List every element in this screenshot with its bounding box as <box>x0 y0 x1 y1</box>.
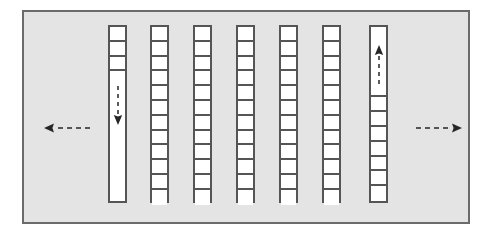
stack-cell <box>152 71 167 86</box>
stack-cell <box>152 145 167 160</box>
stack-cell <box>152 190 167 205</box>
stack-cell <box>281 57 296 72</box>
stack-empty-space-with-up-arrow-icon <box>371 27 386 95</box>
stack-cell <box>152 86 167 101</box>
stack-cell <box>324 116 339 131</box>
stack-cell <box>281 116 296 131</box>
stack-cell <box>324 175 339 190</box>
stack-cell <box>371 171 386 186</box>
stack-column-5 <box>279 25 298 203</box>
stack-cell <box>238 190 253 205</box>
stack-cell <box>195 116 210 131</box>
flow-arrow-right-icon <box>414 120 464 140</box>
stack-cell <box>371 127 386 142</box>
stack-cell <box>238 101 253 116</box>
stack-cell <box>195 160 210 175</box>
stack-cell <box>371 142 386 157</box>
diagram-panel <box>22 10 470 224</box>
stack-cell <box>324 27 339 42</box>
stack-column-2 <box>150 25 169 203</box>
stack-cell <box>324 42 339 57</box>
stack-cell <box>281 101 296 116</box>
stack-cell <box>195 42 210 57</box>
figure-root <box>0 0 493 235</box>
stack-column-3 <box>193 25 212 203</box>
stack-cell <box>238 175 253 190</box>
stack-cell <box>238 57 253 72</box>
stack-cell <box>152 175 167 190</box>
stack-cell <box>238 86 253 101</box>
stack-cell <box>371 112 386 127</box>
stack-cell <box>195 101 210 116</box>
stack-cell <box>110 57 125 72</box>
stack-cell <box>195 57 210 72</box>
stack-cell <box>371 157 386 172</box>
stack-cell <box>195 190 210 205</box>
stack-cell <box>371 97 386 112</box>
stack-cell <box>238 131 253 146</box>
stack-cell <box>195 175 210 190</box>
stack-cell <box>281 190 296 205</box>
stack-cell <box>324 190 339 205</box>
stack-cell <box>281 86 296 101</box>
stack-cell <box>110 27 125 42</box>
stack-column-1 <box>108 25 127 203</box>
stack-cell <box>238 145 253 160</box>
stack-cell <box>238 27 253 42</box>
stack-cell <box>324 145 339 160</box>
stack-column-4 <box>236 25 255 203</box>
stack-cell <box>152 131 167 146</box>
stack-cell <box>281 27 296 42</box>
stack-column-7 <box>369 25 388 203</box>
stack-cell <box>238 71 253 86</box>
stack-cell <box>324 57 339 72</box>
stack-cell <box>152 116 167 131</box>
stack-cell <box>281 131 296 146</box>
stack-cell <box>195 86 210 101</box>
stack-cell <box>324 131 339 146</box>
stack-cell <box>324 71 339 86</box>
stack-cell <box>195 27 210 42</box>
stack-cell <box>324 101 339 116</box>
stack-cell <box>281 160 296 175</box>
stack-empty-space-with-down-arrow-icon <box>110 71 125 201</box>
stack-cell <box>152 27 167 42</box>
stack-cell <box>195 71 210 86</box>
stack-cell <box>281 175 296 190</box>
stack-column-6 <box>322 25 341 203</box>
stack-cell <box>195 131 210 146</box>
stack-cell <box>110 42 125 57</box>
stack-cell <box>238 160 253 175</box>
stack-cell <box>324 86 339 101</box>
stack-cell <box>152 160 167 175</box>
stack-cell <box>371 186 386 201</box>
stack-cell <box>324 160 339 175</box>
stack-cell <box>152 57 167 72</box>
stack-cell <box>238 116 253 131</box>
stack-cell <box>281 42 296 57</box>
stack-cell <box>238 42 253 57</box>
stack-cell <box>195 145 210 160</box>
stack-cell <box>152 42 167 57</box>
stack-cell <box>281 71 296 86</box>
stack-cell <box>152 101 167 116</box>
flow-arrow-left-icon <box>42 120 92 140</box>
stack-cell <box>281 145 296 160</box>
